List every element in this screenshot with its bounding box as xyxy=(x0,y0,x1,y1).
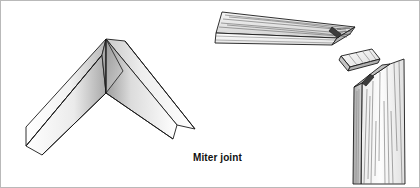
miter-joint-illustration xyxy=(1,1,420,188)
miter-joint-figure: Miter joint xyxy=(0,0,420,188)
vertical-board xyxy=(353,59,405,184)
vertical-board-side-face xyxy=(353,83,362,184)
assembled-miter-corner xyxy=(26,39,195,155)
right-arm-front-face xyxy=(106,39,177,139)
spline-key xyxy=(339,49,380,71)
horizontal-board xyxy=(215,12,355,45)
exploded-miter-assembly xyxy=(215,12,405,184)
